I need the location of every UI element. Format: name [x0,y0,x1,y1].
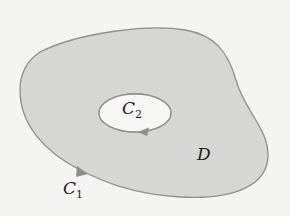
label-d: D [197,146,211,163]
label-c1-main: C [63,178,76,198]
label-c2-main: C [122,98,135,118]
label-c1-subscript: 1 [76,188,83,201]
label-c1: C1 [63,180,83,200]
label-c2: C2 [122,100,142,120]
region-diagram [0,0,290,216]
label-c2-subscript: 2 [135,108,142,121]
label-d-text: D [197,144,211,164]
